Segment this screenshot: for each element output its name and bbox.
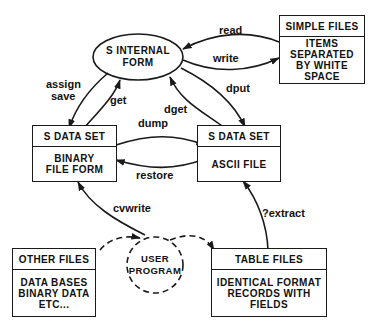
other-files-line: DATA BASES <box>20 277 87 288</box>
other-files-body: DATA BASES BINARY DATA ETC... <box>13 270 95 316</box>
node-binary-dataset: S DATA SET BINARY FILE FORM <box>32 125 117 182</box>
user-program-line1: USER <box>141 253 169 265</box>
label-restore: restore <box>136 170 173 181</box>
label-write: write <box>213 53 239 64</box>
label-dget: dget <box>164 104 187 115</box>
label-dump: dump <box>138 118 168 129</box>
edge-read <box>183 34 279 49</box>
binary-dataset-line: BINARY <box>54 153 94 164</box>
ascii-dataset-header: S DATA SET <box>198 126 280 147</box>
binary-dataset-header: S DATA SET <box>33 126 116 147</box>
table-files-line: FIELDS <box>250 299 288 310</box>
internal-form-line2: FORM <box>122 57 153 69</box>
simple-files-body: ITEMS SEPARATED BY WHITE SPACE <box>280 37 364 83</box>
other-files-line: ETC... <box>39 299 70 310</box>
simple-files-line: SEPARATED <box>290 49 354 60</box>
label-get: get <box>110 95 127 106</box>
table-files-line: RECORDS WITH <box>227 288 310 299</box>
binary-dataset-body: BINARY FILE FORM <box>33 147 116 181</box>
simple-files-line: ITEMS <box>306 38 339 49</box>
edge-dump <box>116 137 205 145</box>
label-extract: ?extract <box>262 208 305 219</box>
edge-restore <box>116 159 205 167</box>
node-internal-form: S INTERNAL FORM <box>93 34 183 80</box>
other-files-line: BINARY DATA <box>18 288 89 299</box>
table-files-line: IDENTICAL FORMAT <box>217 277 321 288</box>
node-simple-files: SIMPLE FILES ITEMS SEPARATED BY WHITE SP… <box>279 15 365 84</box>
label-assign: assign <box>46 79 81 90</box>
simple-files-line: BY WHITE <box>296 60 348 71</box>
node-user-program: USER PROGRAM <box>127 237 183 293</box>
simple-files-header: SIMPLE FILES <box>280 16 364 37</box>
internal-form-line1: S INTERNAL <box>106 45 170 57</box>
label-save: save <box>51 91 75 102</box>
simple-files-line: SPACE <box>304 71 340 82</box>
label-cvwrite: cvwrite <box>113 203 151 214</box>
label-read: read <box>219 25 242 36</box>
label-dput: dput <box>226 83 250 94</box>
edge-dget <box>170 77 222 126</box>
node-ascii-dataset: S DATA SET ASCII FILE <box>197 125 281 182</box>
user-program-line2: PROGRAM <box>129 265 181 277</box>
table-files-body: IDENTICAL FORMAT RECORDS WITH FIELDS <box>212 270 326 316</box>
node-other-files: OTHER FILES DATA BASES BINARY DATA ETC..… <box>12 248 96 317</box>
ascii-dataset-body: ASCII FILE <box>198 147 280 181</box>
ascii-dataset-line: ASCII FILE <box>211 159 266 170</box>
table-files-header: TABLE FILES <box>212 249 326 270</box>
node-table-files: TABLE FILES IDENTICAL FORMAT RECORDS WIT… <box>211 248 327 317</box>
edge-dput <box>181 68 245 127</box>
binary-dataset-line: FILE FORM <box>46 164 103 175</box>
other-files-header: OTHER FILES <box>13 249 95 270</box>
